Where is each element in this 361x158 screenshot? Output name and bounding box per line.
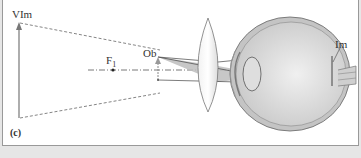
- focal-point-label: F1: [106, 55, 116, 66]
- object-label: Ob: [143, 48, 156, 59]
- converging-lens: [198, 18, 218, 112]
- image-label: Im: [335, 39, 347, 50]
- panel-label: (c): [10, 128, 21, 138]
- object-base: [157, 79, 159, 81]
- virtual-ray-bottom: [20, 93, 160, 118]
- optics-diagram: [0, 0, 361, 158]
- virtual-image-label: VIm: [12, 9, 32, 20]
- eye-illustration: [230, 17, 356, 131]
- focal-point-subscript: 1: [112, 60, 116, 69]
- virtual-ray-top: [20, 23, 160, 50]
